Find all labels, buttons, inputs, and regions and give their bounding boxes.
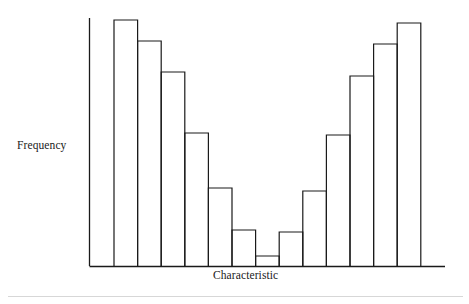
histogram-bar bbox=[350, 76, 374, 266]
x-axis-label: Characteristic bbox=[213, 269, 278, 281]
histogram-bar bbox=[303, 191, 327, 266]
histogram-bar bbox=[374, 44, 398, 266]
histogram-bar bbox=[232, 230, 256, 266]
histogram-plot bbox=[0, 0, 469, 304]
histogram-bar bbox=[138, 41, 162, 266]
histogram-bar bbox=[161, 72, 185, 266]
histogram-bars bbox=[114, 20, 421, 266]
histogram-bar bbox=[114, 20, 138, 266]
histogram-bar bbox=[208, 188, 232, 266]
histogram-bar bbox=[256, 256, 280, 266]
y-axis-label: Frequency bbox=[17, 139, 66, 151]
footer-divider bbox=[8, 296, 463, 297]
histogram-figure: Frequency Characteristic bbox=[0, 0, 469, 304]
histogram-bar bbox=[326, 135, 350, 266]
histogram-bar bbox=[397, 23, 421, 266]
histogram-bar bbox=[185, 133, 209, 266]
axes-group bbox=[90, 18, 446, 267]
histogram-bar bbox=[279, 232, 303, 266]
